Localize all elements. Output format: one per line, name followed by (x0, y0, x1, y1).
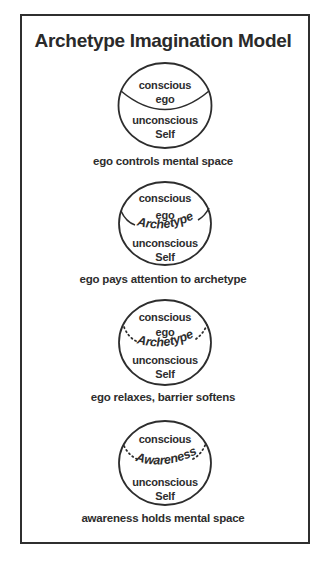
barrier-right-dotted (196, 325, 207, 339)
label-conscious: conscious (139, 311, 192, 323)
stage-2-circle: conscious ego Archetype unconscious Self (119, 182, 211, 265)
label-conscious: conscious (139, 433, 192, 445)
label-unconscious: unconscious (132, 476, 198, 488)
label-self: Self (155, 251, 175, 263)
stage-3-caption: ego relaxes, barrier softens (0, 391, 326, 403)
label-awareness-curved: Awareness (133, 444, 198, 468)
label-unconscious: unconscious (132, 114, 198, 126)
label-unconscious: unconscious (132, 354, 198, 366)
label-self: Self (155, 368, 175, 380)
label-unconscious: unconscious (132, 237, 198, 249)
stage-2-caption: ego pays attention to archetype (0, 273, 326, 285)
label-conscious: conscious (139, 192, 192, 204)
stage-4-caption: awareness holds mental space (0, 512, 326, 524)
stage-3-circle: conscious ego Archetype unconscious Self (119, 300, 211, 385)
label-conscious: conscious (139, 79, 192, 91)
stage-4-circle: conscious Awareness unconscious Self (119, 421, 211, 505)
barrier-right-solid (198, 208, 209, 220)
label-self: Self (155, 490, 175, 502)
label-ego: ego (156, 93, 175, 105)
stage-1-caption: ego controls mental space (0, 155, 326, 167)
stage-1-circle: conscious ego unconscious Self (119, 63, 212, 148)
barrier-left-dotted (124, 327, 136, 341)
barrier-left-solid (121, 211, 135, 225)
label-self: Self (155, 128, 175, 140)
